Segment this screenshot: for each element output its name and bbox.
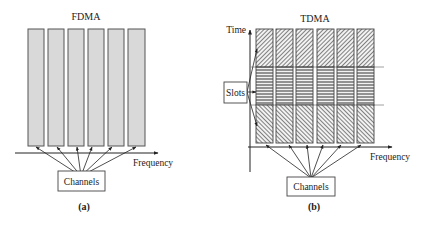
tdma-channel-bar [357, 29, 374, 143]
tdma-channel-arrows [266, 145, 361, 178]
tdma-channel-bar [317, 29, 334, 143]
tdma-channels-label: Channels [293, 182, 329, 192]
tdma-channel-bar [276, 29, 293, 143]
tdma-slots-label: Slots [226, 88, 245, 98]
fdma-tdma-diagram: FDMA Frequency Channels (a) TDMA Time [0, 0, 432, 228]
tdma-panel: TDMA Time [224, 13, 410, 213]
fdma-frequency-label: Frequency [133, 158, 173, 168]
tdma-slot-arrows [247, 49, 257, 126]
fdma-panel: FDMA Frequency Channels (a) [15, 11, 173, 213]
tdma-channel-bar [337, 29, 354, 143]
fdma-channel-bar [128, 29, 145, 146]
tdma-time-label: Time [226, 25, 246, 35]
tdma-caption: (b) [308, 201, 320, 213]
tdma-title: TDMA [300, 13, 330, 24]
fdma-caption: (a) [78, 201, 90, 213]
fdma-channels-label: Channels [64, 177, 100, 187]
fdma-channel-bar [88, 29, 104, 146]
fdma-channel-bars [28, 29, 145, 146]
tdma-channel-bar [296, 29, 313, 143]
tdma-channel-bars [256, 29, 374, 143]
fdma-channel-bar [28, 29, 44, 146]
fdma-channel-bar [108, 29, 124, 146]
tdma-channel-bar [256, 29, 273, 143]
tdma-frequency-label: Frequency [370, 152, 410, 162]
fdma-title: FDMA [72, 11, 102, 22]
fdma-channel-bar [48, 29, 64, 146]
fdma-channel-bar [68, 29, 84, 146]
